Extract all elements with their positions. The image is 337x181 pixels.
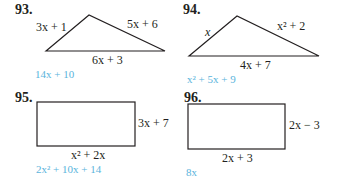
problem-94-right-side: x² + 2 xyxy=(277,19,305,34)
problem-93-left-side: 3x + 1 xyxy=(36,20,67,35)
problem-95-right-side: 3x + 7 xyxy=(138,116,169,131)
problem-93-right-side: 5x + 6 xyxy=(127,17,158,32)
problem-95-number: 95. xyxy=(15,90,33,106)
problem-96-bottom-side: 2x + 3 xyxy=(222,151,253,166)
problem-96-answer: 8x xyxy=(186,166,197,178)
problem-94-answer: x² + 5x + 9 xyxy=(187,73,236,85)
problem-94-number: 94. xyxy=(183,2,201,18)
problem-94-left-side: x xyxy=(205,25,210,40)
problem-96-right-side: 2x − 3 xyxy=(289,118,320,133)
problem-93-number: 93. xyxy=(15,2,33,18)
problem-94-bottom-side: 4x + 7 xyxy=(240,58,271,73)
problem-93-answer: 14x + 10 xyxy=(35,68,74,80)
problem-93-bottom-side: 6x + 3 xyxy=(92,53,123,68)
rectangle-96 xyxy=(188,104,285,149)
rectangle-95 xyxy=(37,102,135,146)
problem-95-bottom-side: x² + 2x xyxy=(71,148,105,163)
problem-95-answer: 2x² + 10x + 14 xyxy=(36,163,101,175)
problem-96-number: 96. xyxy=(184,90,202,106)
